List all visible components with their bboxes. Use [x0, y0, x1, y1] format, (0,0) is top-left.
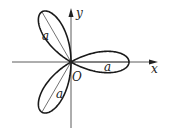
- petal-length-label-upper-left: a: [42, 29, 49, 43]
- petal-length-label-right: a: [104, 60, 111, 74]
- y-axis-arrow-icon: [69, 8, 74, 17]
- x-axis-label: x: [151, 62, 158, 76]
- origin-label: O: [72, 70, 82, 84]
- petal-length-label-lower-left: a: [56, 87, 63, 101]
- y-axis-label: y: [75, 6, 83, 20]
- rose-curve-diagram: x y O a a a: [0, 0, 169, 135]
